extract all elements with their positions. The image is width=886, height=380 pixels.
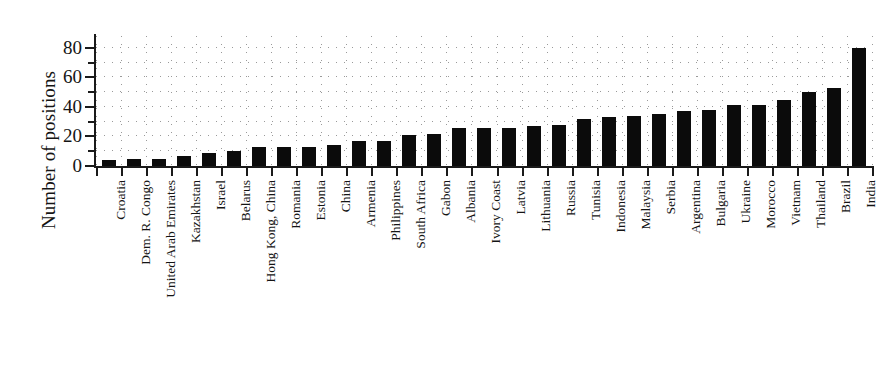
bar (627, 116, 641, 166)
bar (402, 135, 416, 166)
x-axis-tick-label: Kazakhstan (189, 180, 203, 243)
x-axis-tick (522, 167, 524, 176)
x-axis-tick (722, 167, 724, 176)
x-axis-tick (96, 167, 98, 176)
bar (427, 134, 441, 167)
y-axis-tick-minor (88, 62, 95, 64)
bar (802, 92, 816, 166)
bar (327, 145, 341, 166)
bar (352, 141, 366, 166)
x-axis-tick (847, 167, 849, 176)
x-axis-tick-label: Hong Kong, China (264, 180, 278, 282)
y-axis-tick-label: 0 (38, 156, 82, 175)
x-axis-tick (271, 167, 273, 176)
bar (852, 48, 866, 166)
x-axis-tick-label: Dem. R. Congo (139, 180, 153, 265)
x-axis-tick-label: Thailand (814, 180, 828, 228)
x-axis-tick-label: Russia (564, 180, 578, 216)
y-axis-tick-major (85, 135, 95, 137)
x-axis-tick (346, 167, 348, 176)
x-axis-tick-label: Gabon (439, 180, 453, 216)
y-axis-tick-major (85, 47, 95, 49)
y-axis-tick-minor (88, 121, 95, 123)
x-axis-tick-label: Indonesia (614, 180, 628, 232)
y-axis-tick-label: 60 (38, 67, 82, 86)
bar (377, 141, 391, 166)
bar (127, 159, 141, 166)
bar (277, 147, 291, 166)
x-axis-tick-label: India (864, 180, 878, 208)
y-axis-tick-label: 80 (38, 38, 82, 57)
x-axis-tick-label: Argentina (689, 180, 703, 234)
bar (702, 110, 716, 166)
x-axis-line (94, 166, 874, 168)
x-axis-tick-label: Vietnam (789, 180, 803, 226)
y-axis-tick-label: 40 (38, 97, 82, 116)
x-axis-tick (246, 167, 248, 176)
x-axis-tick-label: Morocco (764, 180, 778, 229)
x-axis-tick (446, 167, 448, 176)
x-axis-tick (371, 167, 373, 176)
x-axis-tick-label: Israel (214, 180, 228, 210)
x-axis-tick (296, 167, 298, 176)
bar (752, 105, 766, 166)
x-axis-tick-label: Serbia (664, 180, 678, 215)
x-axis-tick (822, 167, 824, 176)
y-axis-tick-major (85, 106, 95, 108)
x-axis-tick (171, 167, 173, 176)
x-axis-tick-label: Ukraine (739, 180, 753, 223)
x-axis-tick (797, 167, 799, 176)
x-axis-tick (622, 167, 624, 176)
x-axis-tick (396, 167, 398, 176)
x-axis-tick-label: Albania (464, 180, 478, 223)
x-axis-tick-label: China (339, 180, 353, 212)
bar (227, 151, 241, 166)
x-axis-tick (572, 167, 574, 176)
x-axis-tick (497, 167, 499, 176)
y-axis-tick-major (85, 165, 95, 167)
x-axis-tick (872, 167, 874, 176)
bar (477, 128, 491, 166)
x-axis-tick (597, 167, 599, 176)
bar (727, 105, 741, 166)
bar (677, 111, 691, 166)
bar (652, 114, 666, 166)
x-axis-tick-label: Croatia (114, 180, 128, 220)
bar (827, 88, 841, 166)
y-axis-tick-labels: 020406080 (26, 0, 82, 380)
x-axis-tick (772, 167, 774, 176)
x-axis-tick-label: Armenia (364, 180, 378, 227)
bar (252, 147, 266, 166)
x-axis-tick (471, 167, 473, 176)
x-axis-tick (146, 167, 148, 176)
x-axis-tick (421, 167, 423, 176)
x-axis-tick-label: Lithuania (539, 180, 553, 232)
bar (452, 128, 466, 166)
x-axis-tick-label: South Africa (414, 180, 428, 249)
bar (302, 147, 316, 166)
bar (577, 119, 591, 166)
x-axis-tick (121, 167, 123, 176)
x-axis-tick (672, 167, 674, 176)
y-axis-tick-label: 20 (38, 126, 82, 145)
bar (602, 117, 616, 166)
x-axis-tick-label: Ivory Coast (489, 180, 503, 243)
x-axis-tick (221, 167, 223, 176)
x-axis-tick (196, 167, 198, 176)
y-axis-tick-minor (88, 150, 95, 152)
bar-chart-figure: Number of positions 020406080 CroatiaDem… (0, 0, 886, 380)
x-axis-tick-label: Philippines (389, 180, 403, 241)
x-axis-tick-label: Tunisia (589, 180, 603, 220)
y-axis-tick-major (85, 76, 95, 78)
bar (552, 125, 566, 166)
x-axis-tick (547, 167, 549, 176)
x-axis-tick-label: Latvia (514, 180, 528, 214)
y-axis-tick-minor (88, 91, 95, 93)
bar (777, 100, 791, 166)
x-axis-tick-label: United Arab Emirates (164, 180, 178, 298)
x-axis-tick-label: Bulgaria (714, 180, 728, 227)
bar-series (96, 36, 872, 166)
bar (102, 160, 116, 166)
x-axis-tick (747, 167, 749, 176)
bar (527, 126, 541, 166)
